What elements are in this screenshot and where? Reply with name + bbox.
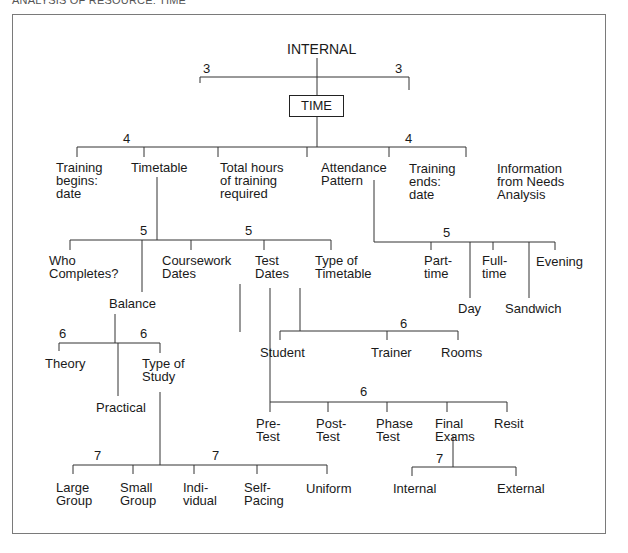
node-small-group: Small Group	[120, 481, 156, 507]
node-full-time: Full- time	[482, 254, 507, 280]
node-attendance-pattern: Attendance Pattern	[321, 161, 387, 187]
node-coursework-dates: Coursework Dates	[162, 254, 231, 280]
level-number: 6	[400, 317, 407, 330]
node-rooms: Rooms	[441, 346, 482, 359]
node-part-time: Part- time	[424, 254, 452, 280]
level-number: 7	[436, 452, 443, 465]
node-pre-test: Pre- Test	[256, 417, 281, 443]
node-test-dates: Test Dates	[255, 254, 289, 280]
level-number: 4	[405, 132, 412, 145]
level-number: 5	[140, 224, 147, 237]
level-number: 6	[360, 385, 367, 398]
node-training-ends: Training ends: date	[409, 162, 455, 201]
node-training-begins: Training begins: date	[56, 161, 102, 200]
level-number: 3	[203, 62, 210, 75]
node-needs-analysis: Information from Needs Analysis	[497, 162, 564, 201]
node-type-of-study: Type of Study	[142, 357, 185, 383]
node-internal: INTERNAL	[287, 42, 356, 56]
node-total-hours: Total hours of training required	[220, 161, 284, 200]
node-day: Day	[458, 302, 481, 315]
node-evening: Evening	[536, 255, 583, 268]
node-theory: Theory	[45, 357, 85, 370]
node-who-completes: Who Completes?	[49, 254, 118, 280]
node-post-test: Post- Test	[316, 417, 346, 443]
node-timetable: Timetable	[131, 161, 188, 174]
node-uniform: Uniform	[306, 482, 352, 495]
node-student: Student	[260, 346, 305, 359]
node-balance: Balance	[109, 297, 156, 310]
level-number: 7	[94, 449, 101, 462]
node-individual: Indi- vidual	[183, 481, 217, 507]
node-practical: Practical	[96, 401, 146, 414]
level-number: 6	[59, 327, 66, 340]
level-number: 5	[443, 226, 450, 239]
node-large-group: Large Group	[56, 481, 92, 507]
node-external-exam: External	[497, 482, 545, 495]
node-internal-exam: Internal	[393, 482, 436, 495]
node-phase-test: Phase Test	[376, 417, 413, 443]
level-number: 4	[123, 132, 130, 145]
node-resit: Resit	[494, 417, 524, 430]
node-sandwich: Sandwich	[505, 302, 561, 315]
node-time: TIME	[289, 95, 344, 117]
level-number: 3	[395, 62, 402, 75]
node-type-of-timetable: Type of Timetable	[315, 254, 372, 280]
node-self-pacing: Self- Pacing	[244, 481, 284, 507]
node-final-exams: Final Exams	[435, 417, 475, 443]
level-number: 6	[140, 327, 147, 340]
node-trainer: Trainer	[371, 346, 412, 359]
level-number: 5	[245, 224, 252, 237]
level-number: 7	[212, 449, 219, 462]
